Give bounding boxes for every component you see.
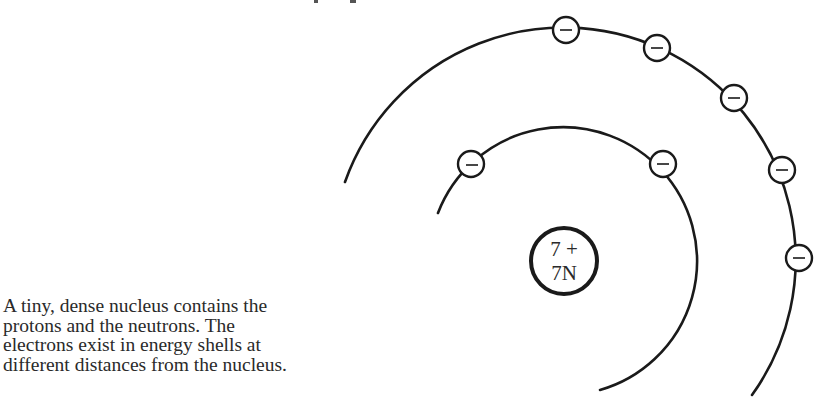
caption-line-2: protons and the neutrons. The [3,316,443,336]
clipped-text-fragments [314,0,356,3]
caption-line-1: A tiny, dense nucleus contains the [3,296,443,316]
caption: A tiny, dense nucleus contains the proto… [3,296,443,374]
electron-icon [553,17,579,43]
electron-icon [721,85,747,111]
nucleus-protons-label: 7 + [550,237,578,261]
electron-icon [458,151,484,177]
nucleus: 7 + 7N [531,228,597,294]
nucleus-neutrons-label: 7N [551,261,577,285]
electron-icon [769,157,795,183]
electron-icon [644,35,670,61]
caption-line-4: different distances from the nucleus. [3,355,443,375]
electron-icon [786,245,812,271]
outer-electrons [553,17,812,271]
electron-icon [650,151,676,177]
caption-line-3: electrons exist in energy shells at [3,335,443,355]
